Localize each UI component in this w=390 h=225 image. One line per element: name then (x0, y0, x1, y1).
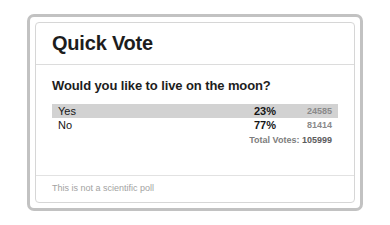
poll-widget-frame: Quick Vote Would you like to live on the… (27, 14, 363, 211)
poll-card: Quick Vote Would you like to live on the… (35, 22, 355, 203)
poll-footer: This is not a scientific poll (36, 175, 354, 202)
option-label: Yes (52, 104, 216, 118)
option-vote-count: 24585 (276, 104, 338, 118)
table-row[interactable]: Yes 23% 24585 (52, 104, 338, 118)
table-row[interactable]: No 77% 81414 (52, 118, 338, 132)
total-votes-value: 105999 (302, 135, 332, 145)
option-percent: 23% (216, 104, 276, 118)
poll-header: Quick Vote (36, 23, 354, 65)
total-votes-label: Total Votes: (249, 135, 299, 145)
poll-body: Would you like to live on the moon? Yes … (36, 65, 354, 175)
poll-results-table: Yes 23% 24585 No 77% 81414 (52, 104, 338, 132)
poll-disclaimer: This is not a scientific poll (52, 183, 338, 193)
page-title: Quick Vote (52, 32, 338, 54)
total-votes: Total Votes: 105999 (52, 135, 338, 145)
poll-question: Would you like to live on the moon? (52, 78, 338, 93)
option-vote-count: 81414 (276, 118, 338, 132)
option-percent: 77% (216, 118, 276, 132)
option-label: No (52, 118, 216, 132)
